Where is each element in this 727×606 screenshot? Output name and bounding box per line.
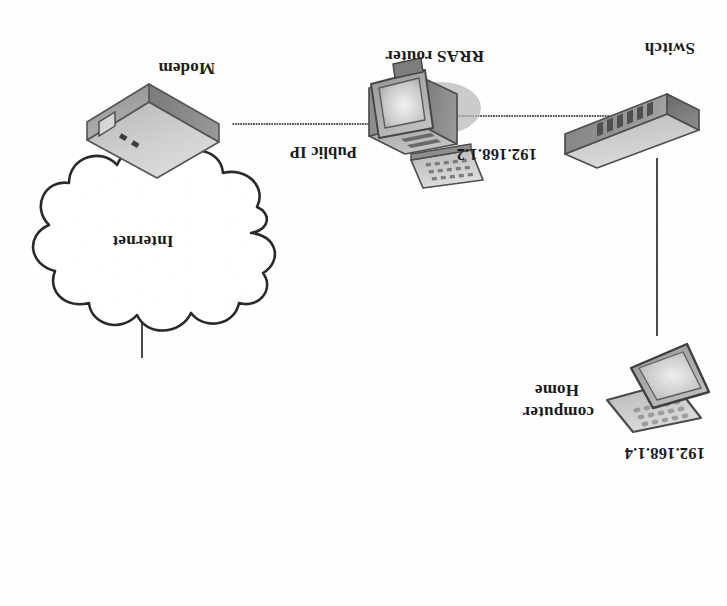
node-modem[interactable] xyxy=(73,68,233,188)
public-ip-annotation: Public IP xyxy=(290,142,357,162)
diagram-page: Internet xyxy=(0,0,727,606)
node-home-computer[interactable] xyxy=(597,321,717,436)
internet-label: Internet xyxy=(93,231,193,251)
rras-router-label: RRAS router xyxy=(385,46,484,66)
modem-label: Modem xyxy=(158,58,215,78)
link-switch-computer xyxy=(656,158,658,336)
laptop-icon xyxy=(597,321,717,436)
node-rras-router[interactable] xyxy=(327,58,497,188)
switch-label: Switch xyxy=(645,38,695,58)
rotated-canvas: Internet xyxy=(0,0,727,606)
node-switch[interactable] xyxy=(549,66,709,176)
server-computer-icon xyxy=(327,58,497,188)
home-computer-address: 192.168.1.4 xyxy=(624,443,705,463)
router-lan-ip-annotation: 192.168.1.2 xyxy=(456,144,537,164)
switch-icon xyxy=(549,66,709,176)
home-computer-label-line1: computer xyxy=(523,402,594,422)
home-computer-label-line2: Home xyxy=(535,380,579,400)
modem-icon xyxy=(73,68,233,188)
